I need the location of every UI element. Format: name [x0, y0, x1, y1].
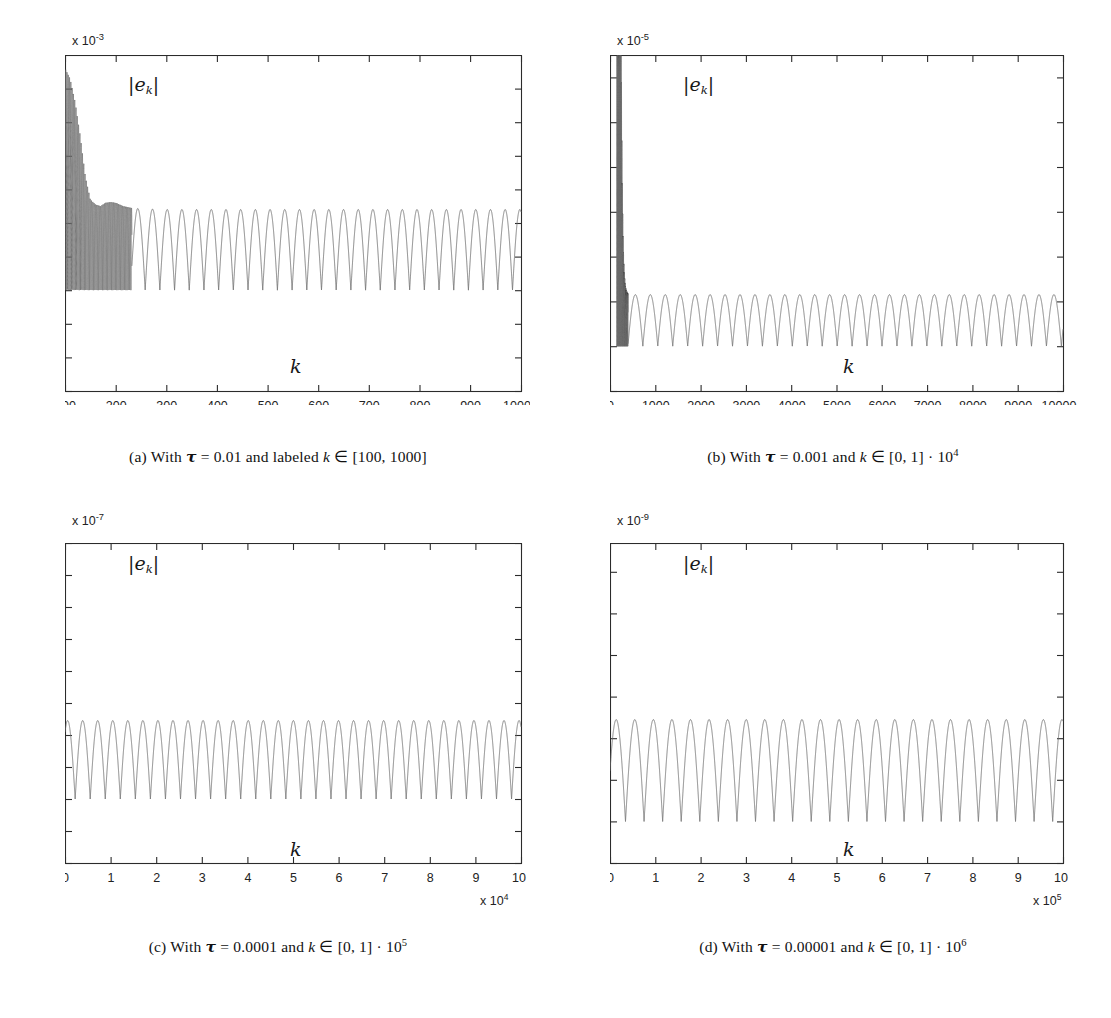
panel-c-x-exponent: x 104 [480, 894, 508, 908]
panel-c-curve [65, 721, 521, 799]
panel-c-xtick: 7 [381, 871, 388, 885]
panel-b-xtick: 8000 [959, 399, 987, 405]
panel-b-xtick: 6000 [868, 399, 896, 405]
panel-b-xtick: 0 [610, 399, 614, 405]
panel-b-xtick: 7000 [914, 399, 942, 405]
panel-a-xtick: 700 [359, 399, 380, 405]
panel-d-xtick: 7 [924, 871, 931, 885]
panel-d-xtick: 6 [879, 871, 886, 885]
panel-d-xtick: 8 [969, 871, 976, 885]
panel-b-axes: -2 0 2 4 6 8 10 12 [610, 55, 1080, 405]
panel-d-xtick: 3 [743, 871, 750, 885]
panel-a-xtick: 800 [410, 399, 431, 405]
panel-b-xtick: 3000 [732, 399, 760, 405]
panel-a-y-exponent: x 10-3 [72, 34, 104, 48]
panel-c-xtick: 2 [153, 871, 160, 885]
panel-a-xtick: 500 [258, 399, 279, 405]
oscillation-trace-spike [617, 55, 628, 346]
panel-d-xtick: 5 [834, 871, 841, 885]
panel-c-xtick: 0 [65, 871, 69, 885]
panel-c-axes: -2 -1 0 1 2 3 4 5 6 7 8 [65, 543, 530, 893]
panel-d-xtick: 9 [1015, 871, 1022, 885]
panel-b-xtick: 4000 [778, 399, 806, 405]
panel-a-xtick: 900 [460, 399, 481, 405]
panel-d-xtick: 1 [652, 871, 659, 885]
panel-c-y-exponent: x 10-7 [72, 514, 104, 528]
panel-a-curve [65, 70, 521, 290]
panel-d-curve [610, 720, 1063, 822]
oscillation-trace [610, 720, 1063, 822]
panel-d-plot: -1 0 1 2 3 4 5 6 [610, 543, 1080, 893]
panel-a-xtick: 300 [156, 399, 177, 405]
panel-c-xtick: 6 [336, 871, 343, 885]
panel-a-axes: -3 -2 -1 0 1 2 3 4 5 6 [65, 55, 530, 405]
panel-b-xtick: 1000 [642, 399, 670, 405]
panel-b-caption: (b) With τ = 0.001 and k ∈ [0, 1] · 104 [555, 447, 1111, 466]
panel-a-xtick: 1000 [503, 399, 530, 405]
panel-b-xtick: 10000 [1042, 399, 1077, 405]
panel-a-caption: (a) With τ = 0.01 and labeled k ∈ [100, … [0, 447, 556, 466]
panel-a-plot: -3 -2 -1 0 1 2 3 4 5 6 [65, 55, 530, 405]
oscillation-trace-steady [628, 295, 1063, 346]
panel-a-xtick: 400 [207, 399, 228, 405]
figure-grid: x 10-3 |ek| k -3 [0, 0, 1111, 1018]
panel-c-xtick: 3 [199, 871, 206, 885]
panel-c-xtick: 8 [427, 871, 434, 885]
panel-c-xtick: 10 [512, 871, 526, 885]
panel-d-xtick: 0 [610, 871, 614, 885]
panel-a-xtick: 600 [308, 399, 329, 405]
panel-b-y-exponent: x 10-5 [617, 34, 649, 48]
panel-b-xtick: 5000 [823, 399, 851, 405]
panel-d-axes: -1 0 1 2 3 4 5 6 [610, 543, 1080, 893]
panel-c-xtick: 5 [290, 871, 297, 885]
panel-d-caption: (d) With τ = 0.00001 and k ∈ [0, 1] · 10… [555, 937, 1111, 956]
panel-a-xtick: 100 [65, 399, 76, 405]
oscillation-trace [65, 721, 521, 799]
panel-d-x-exponent: x 105 [1033, 894, 1061, 908]
oscillation-trace-steady [132, 209, 521, 291]
panel-d-y-exponent: x 10-9 [617, 514, 649, 528]
panel-b-xtick: 9000 [1004, 399, 1032, 405]
panel-c-xtick: 1 [108, 871, 115, 885]
panel-d-xtick: 10 [1054, 871, 1068, 885]
panel-d-xtick: 2 [698, 871, 705, 885]
panel-c-xtick: 4 [244, 871, 251, 885]
oscillation-trace-transient [65, 70, 132, 290]
panel-c-caption: (c) With τ = 0.0001 and k ∈ [0, 1] · 105 [0, 937, 556, 956]
panel-c-plot: -2 -1 0 1 2 3 4 5 6 7 8 [65, 543, 530, 893]
panel-b-xtick: 2000 [687, 399, 715, 405]
panel-c-xtick: 9 [472, 871, 479, 885]
panel-b-plot: -2 0 2 4 6 8 10 12 [610, 55, 1080, 405]
panel-d-xtick: 4 [788, 871, 795, 885]
panel-b-curve [617, 55, 1063, 346]
panel-a-xtick: 200 [106, 399, 127, 405]
